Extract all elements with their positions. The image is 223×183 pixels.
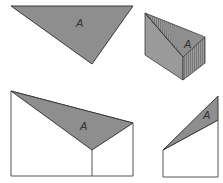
face-label-a: A: [75, 17, 83, 29]
flat-triangle-figure: A: [11, 6, 133, 64]
diagram-canvas: A A A A: [0, 0, 223, 183]
front-elevation-figure: A: [11, 91, 133, 176]
side-elevation-figure: A: [163, 96, 218, 177]
prism-figure: A: [145, 13, 205, 80]
face-label-a: A: [202, 109, 210, 121]
face-label-a: A: [183, 38, 191, 50]
triangle-face-a: [11, 6, 133, 64]
face-label-a: A: [79, 120, 87, 132]
